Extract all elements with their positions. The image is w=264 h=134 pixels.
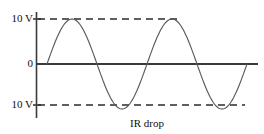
- y-axis-label-zero: 0: [0, 58, 33, 69]
- figure-caption: IR drop: [36, 118, 258, 129]
- y-axis-label-top: 10 V: [0, 13, 33, 24]
- y-axis-label-bottom: 10 V: [0, 99, 33, 110]
- waveform-plot: [0, 0, 264, 134]
- ir-drop-waveform-figure: 10 V 0 10 V IR drop: [0, 0, 264, 134]
